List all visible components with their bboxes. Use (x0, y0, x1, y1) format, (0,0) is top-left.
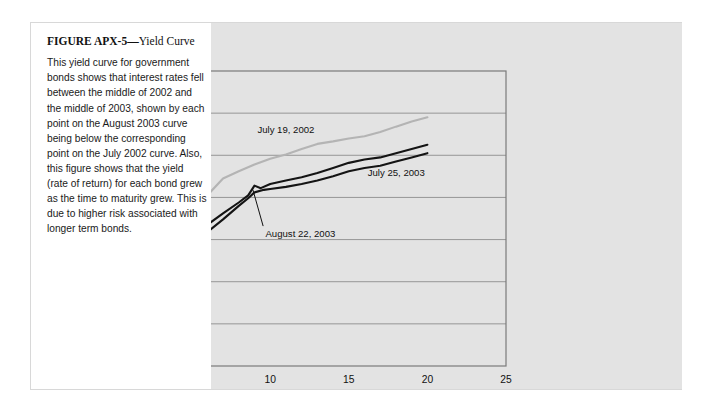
figure-title: FIGURE APX-5—Yield Curve (47, 35, 207, 48)
chart-panel: 012345670510152025Years to MaturityPerce… (211, 23, 682, 389)
x-tick-label: 25 (500, 374, 512, 385)
plot-frame (211, 71, 506, 366)
series-line (211, 117, 427, 294)
figure-title-label: FIGURE APX-5 (47, 35, 127, 47)
series-annotation-label: August 22, 2003 (265, 228, 335, 239)
x-tick-label: 20 (422, 374, 434, 385)
series-annotation-label: July 25, 2003 (368, 167, 425, 178)
x-tick-label: 10 (264, 374, 276, 385)
series-annotation-label: July 19, 2002 (257, 124, 314, 135)
yield-curve-chart: 012345670510152025Years to MaturityPerce… (211, 23, 682, 389)
x-tick-label: 15 (343, 374, 355, 385)
figure-caption-column: FIGURE APX-5—Yield Curve This yield curv… (47, 35, 207, 236)
figure-caption-text: This yield curve for government bonds sh… (47, 55, 207, 236)
figure-title-subject: Yield Curve (139, 35, 195, 47)
figure-title-dash: — (127, 35, 139, 47)
figure-container: FIGURE APX-5—Yield Curve This yield curv… (30, 22, 682, 390)
annotation-leader-line (253, 190, 263, 226)
